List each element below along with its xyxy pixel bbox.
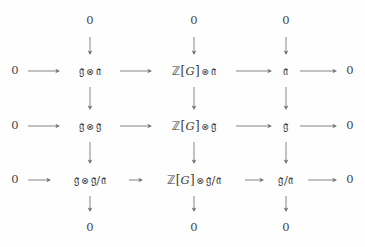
arrow-col1-r1-to-r2 [86,87,95,110]
arrow-col2-r1-to-r2 [190,87,199,110]
symbol-tensor: ⊗ [84,120,95,131]
zero-left-row1: 0 [11,65,19,77]
arrow-row1-c3-to-zero [300,67,337,76]
node-r2c3: 𝔤 [283,120,288,133]
commutative-diagram: 𝔤⊗𝔞ℤ[G]⊗𝔞𝔞𝔤⊗𝔤ℤ[G]⊗𝔤𝔤𝔤⊗𝔤/𝔞ℤ[G]⊗𝔤/𝔞𝔤/𝔞0000… [0,0,365,247]
arrow-row2-zero-to-c1 [28,122,60,131]
arrow-row2-c2-to-c3 [236,122,272,131]
arrow-col3-r3-to-zero [282,196,291,212]
symbol-frak: 𝔞 [96,64,101,78]
symbol-frak: 𝔤 [211,119,216,133]
zero-bottom-col3: 0 [282,222,290,234]
symbol-ital: G [186,64,195,78]
symbol-tensor: ⊗ [195,174,206,185]
symbol-frak: 𝔞 [211,64,216,78]
arrow-row3-c1-to-c2 [129,176,143,185]
arrow-col1-zero-to-r1 [86,37,95,55]
symbol-bbZ: ℤ [172,119,181,133]
node-r3c3: 𝔤/𝔞 [278,174,293,187]
arrow-row3-zero-to-c1 [28,176,51,185]
arrow-row3-c3-to-zero [308,176,337,185]
zero-right-row1: 0 [346,65,354,77]
node-r2c1: 𝔤⊗𝔤 [79,120,101,133]
arrow-row3-c2-to-c3 [245,176,264,185]
node-r1c1: 𝔤⊗𝔞 [79,65,101,78]
symbol-tensor: ⊗ [200,120,211,131]
symbol-tensor: ⊗ [79,174,90,185]
symbol-tensor: ⊗ [84,65,95,76]
arrow-row2-c3-to-zero [300,122,337,131]
zero-top-col1: 0 [86,15,94,27]
symbol-frak: 𝔞 [283,64,288,78]
zero-top-col2: 0 [190,15,198,27]
arrow-col2-zero-to-r1 [190,37,199,55]
zero-bottom-col2: 0 [190,222,198,234]
arrow-col3-r1-to-r2 [282,87,291,110]
symbol-frak: 𝔞 [288,173,293,187]
node-r3c2: ℤ[G]⊗𝔤/𝔞 [167,174,221,187]
zero-top-col3: 0 [282,15,290,27]
zero-bottom-col1: 0 [86,222,94,234]
symbol-frak: 𝔤 [91,173,96,187]
symbol-tensor: ⊗ [200,65,211,76]
arrow-col1-r2-to-r3 [86,142,95,164]
arrow-row1-c1-to-c2 [120,67,152,76]
zero-left-row2: 0 [11,120,19,132]
zero-right-row2: 0 [346,120,354,132]
symbol-bbZ: ℤ [167,173,176,187]
arrow-col2-r3-to-zero [190,196,199,212]
zero-left-row3: 0 [11,174,19,186]
node-r1c2: ℤ[G]⊗𝔞 [172,65,216,78]
node-r1c3: 𝔞 [283,65,288,78]
arrow-col2-r2-to-r3 [190,142,199,164]
arrow-row1-c2-to-c3 [236,67,272,76]
arrow-col3-zero-to-r1 [282,37,291,55]
symbol-ital: G [186,119,195,133]
symbol-frak: 𝔞 [216,173,221,187]
zero-right-row3: 0 [346,174,354,186]
arrow-row1-zero-to-c1 [28,67,60,76]
symbol-frak: 𝔞 [101,173,106,187]
node-r2c2: ℤ[G]⊗𝔤 [172,120,216,133]
symbol-bbZ: ℤ [172,64,181,78]
arrow-col1-r3-to-zero [86,196,95,212]
arrow-row2-c1-to-c2 [120,122,152,131]
arrow-col3-r2-to-r3 [282,142,291,164]
symbol-frak: 𝔤 [283,119,288,133]
symbol-ital: G [181,173,190,187]
node-r3c1: 𝔤⊗𝔤/𝔞 [74,174,105,187]
symbol-frak: 𝔤 [96,119,101,133]
